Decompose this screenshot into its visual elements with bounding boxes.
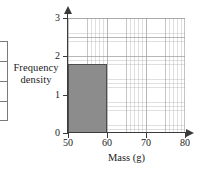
histogram-bar bbox=[68, 64, 107, 133]
x-axis-line bbox=[67, 132, 187, 133]
y-tick-label-3: 3 bbox=[42, 13, 60, 23]
histogram-figure: Frequency density 0 1 2 3 50 60 70 80 bbox=[0, 0, 199, 171]
chart-area: Frequency density 0 1 2 3 50 60 70 80 bbox=[0, 0, 199, 171]
x-tick-label-60: 60 bbox=[95, 138, 119, 148]
x-axis-label: Mass (g) bbox=[68, 152, 185, 164]
x-tick-label-80: 80 bbox=[173, 138, 197, 148]
y-tick-1 bbox=[63, 95, 68, 96]
y-axis-line bbox=[67, 12, 68, 133]
y-tick-label-0: 0 bbox=[42, 128, 60, 138]
y-tick-label-1: 1 bbox=[42, 90, 60, 100]
arrow-up-icon bbox=[64, 6, 72, 14]
arrow-right-icon bbox=[186, 129, 194, 137]
y-axis-label-line-1: Frequency bbox=[10, 62, 62, 74]
y-tick-2 bbox=[63, 56, 68, 57]
x-tick-label-70: 70 bbox=[134, 138, 158, 148]
y-tick-label-2: 2 bbox=[42, 51, 60, 61]
y-tick-3 bbox=[63, 18, 68, 19]
y-axis-label-line-2: density bbox=[10, 74, 62, 86]
y-axis-label: Frequency density bbox=[10, 62, 62, 86]
plot-grid-right-border bbox=[184, 18, 185, 133]
x-tick-label-50: 50 bbox=[56, 138, 80, 148]
plot-grid-top-border bbox=[68, 18, 185, 19]
